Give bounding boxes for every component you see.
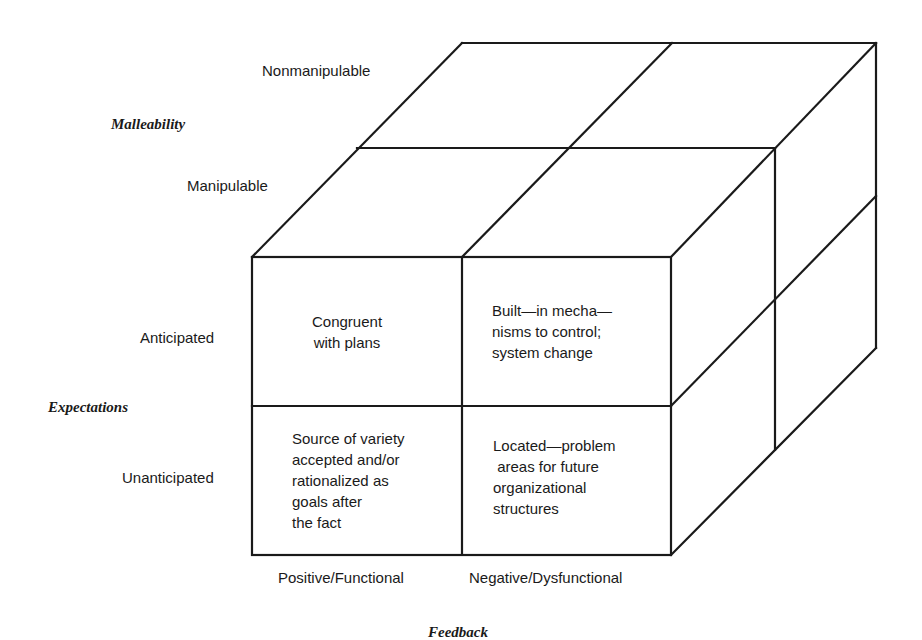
- cube-diagram: [0, 0, 922, 640]
- cell-unanticipated-positive: Source of variety accepted and/or ration…: [292, 428, 405, 533]
- level-unanticipated: Unanticipated: [122, 469, 214, 486]
- right-bottom-edge: [671, 348, 876, 555]
- top-right-edge: [671, 43, 876, 257]
- axis-title-malleability: Malleability: [111, 116, 185, 133]
- right-middle-diagonal: [671, 196, 876, 406]
- axis-title-feedback: Feedback: [428, 624, 488, 640]
- level-nonmanipulable: Nonmanipulable: [262, 62, 370, 79]
- level-manipulable: Manipulable: [187, 177, 268, 194]
- level-positive-functional: Positive/Functional: [278, 569, 404, 586]
- level-anticipated: Anticipated: [140, 329, 214, 346]
- axis-title-expectations: Expectations: [48, 399, 128, 416]
- cell-unanticipated-negative: Located—problem areas for future organiz…: [493, 435, 616, 519]
- cell-anticipated-positive: Congruent with plans: [312, 311, 382, 353]
- cell-anticipated-negative: Built—in mecha— nisms to control; system…: [492, 300, 612, 363]
- level-negative-dysfunctional: Negative/Dysfunctional: [469, 569, 622, 586]
- top-middle-diagonal: [462, 43, 672, 257]
